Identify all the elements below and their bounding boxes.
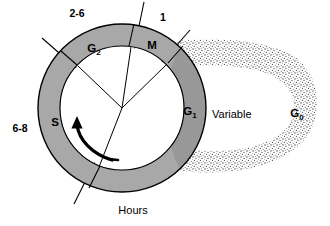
axis-unit-label: Hours — [118, 204, 148, 216]
duration-label-g2: 2-6 — [69, 7, 84, 19]
duration-label-m: 1 — [160, 11, 166, 23]
figure-canvas: G2 M G1 S G0 2-6 1 6-8 Variable Hours — [0, 0, 330, 226]
duration-label-s: 6-8 — [12, 122, 27, 134]
phase-label-s: S — [51, 116, 59, 128]
phase-label-m: M — [147, 39, 157, 51]
duration-label-g1: Variable — [212, 108, 252, 120]
